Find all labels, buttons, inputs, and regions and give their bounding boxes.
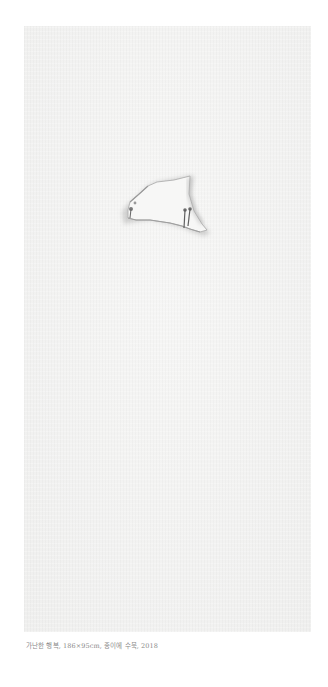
paper-fragment [128, 176, 207, 232]
artwork-painting [24, 26, 311, 632]
artwork-caption: 가난한 행복, 186×95cm, 종이에 수묵, 2018 [26, 640, 158, 650]
torn-paper-fragment [24, 26, 311, 632]
